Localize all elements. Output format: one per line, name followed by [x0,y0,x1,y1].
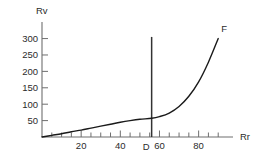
x-axis-tick-labels: 20406080 [76,140,204,151]
chart-container: 50100150200250300 20406080 Rv Rr F D [0,0,264,161]
y-axis-tick-label: 300 [22,33,38,44]
exponential-curve-chart: 50100150200250300 20406080 Rv Rr F D [0,0,264,161]
data-curve-f [42,39,218,137]
x-axis-minor-ticks [52,133,218,138]
series-end-label-f: F [221,23,227,34]
y-axis-tick-label: 250 [22,49,38,60]
data-series-group [42,39,218,137]
x-axis-tick-label: 60 [154,140,165,151]
y-axis-title: Rv [36,5,48,16]
x-axis-title: Rr [240,131,250,142]
y-axis-tick-label: 150 [22,82,38,93]
y-axis-tick-label: 50 [27,115,38,126]
y-axis-tick-label: 100 [22,99,38,110]
x-axis-tick-label: 80 [193,140,204,151]
x-axis-tick-label: 20 [76,140,87,151]
y-axis-tick-label: 200 [22,66,38,77]
y-axis-tick-labels: 50100150200250300 [22,33,38,126]
y-axis-major-ticks [42,39,48,121]
x-axis-tick-label: 40 [115,140,126,151]
annotation-label-d: D [143,141,150,152]
